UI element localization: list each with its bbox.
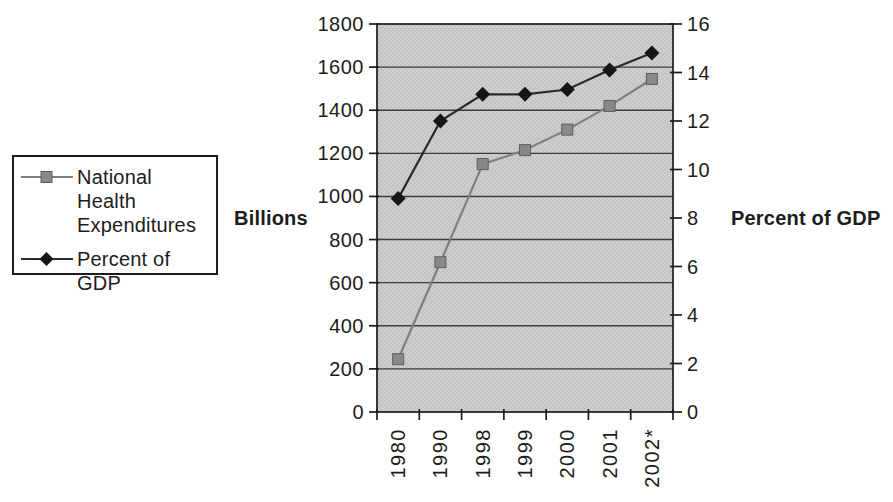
right-axis-tick-label: 8 xyxy=(687,207,699,229)
left-axis-tick-label: 1600 xyxy=(318,56,365,78)
diamond-marker-icon xyxy=(20,247,74,271)
legend-entry-gdp: Percent of GDP xyxy=(20,247,216,295)
right-axis-tick-label: 4 xyxy=(687,304,699,326)
right-axis-title: Percent of GDP xyxy=(731,208,881,228)
x-axis-tick-label: 1999 xyxy=(514,428,536,479)
right-axis-tick-label: 16 xyxy=(687,13,710,35)
right-axis-tick-label: 6 xyxy=(687,256,699,278)
left-axis-tick-label: 800 xyxy=(329,229,364,251)
x-axis-tick-label: 2000 xyxy=(556,428,578,479)
square-marker-icon xyxy=(20,165,74,189)
plot-area xyxy=(377,24,673,412)
square-marker-icon xyxy=(520,145,531,156)
left-axis-tick-label: 400 xyxy=(329,315,364,337)
left-axis-tick-label: 0 xyxy=(352,401,364,423)
right-axis-tick-label: 2 xyxy=(687,353,699,375)
chart-figure: 1800160014001200100080060040020001614121… xyxy=(0,0,893,502)
square-marker-icon xyxy=(477,159,488,170)
left-axis-tick-label: 200 xyxy=(329,358,364,380)
left-axis-tick-label: 1800 xyxy=(318,13,365,35)
right-axis-tick-label: 14 xyxy=(687,62,710,84)
square-marker-icon xyxy=(646,73,657,84)
x-axis-tick-label: 2001 xyxy=(599,428,621,479)
right-axis-tick-label: 10 xyxy=(687,159,710,181)
x-axis-tick-label: 1998 xyxy=(472,428,494,479)
left-axis-title: Billions xyxy=(234,208,308,228)
right-axis-tick-label: 12 xyxy=(687,110,710,132)
square-marker-icon xyxy=(435,257,446,268)
left-axis-tick-label: 1000 xyxy=(318,185,365,207)
left-axis-tick-label: 1200 xyxy=(318,142,365,164)
right-axis-tick-labels: 1614121086420 xyxy=(687,13,710,423)
legend-label-expenditures: National Health Expenditures xyxy=(77,165,216,237)
left-axis-tick-label: 600 xyxy=(329,272,364,294)
square-marker-icon xyxy=(393,354,404,365)
square-marker-icon xyxy=(604,100,615,111)
left-axis-tick-labels: 180016001400120010008006004002000 xyxy=(318,13,365,423)
x-axis-tick-label: 1990 xyxy=(429,428,451,479)
right-axis-tick-label: 0 xyxy=(687,401,699,423)
legend-label-gdp: Percent of GDP xyxy=(77,247,216,295)
square-marker-icon xyxy=(562,124,573,135)
x-axis-tick-label: 2002* xyxy=(641,428,663,488)
x-axis-tick-label: 1980 xyxy=(387,428,409,479)
chart-legend: National Health Expenditures Percent of … xyxy=(12,155,218,275)
x-axis-tick-labels: 1980199019981999200020012002* xyxy=(387,428,663,488)
left-axis-tick-label: 1400 xyxy=(318,99,365,121)
legend-entry-expenditures: National Health Expenditures xyxy=(20,165,216,237)
